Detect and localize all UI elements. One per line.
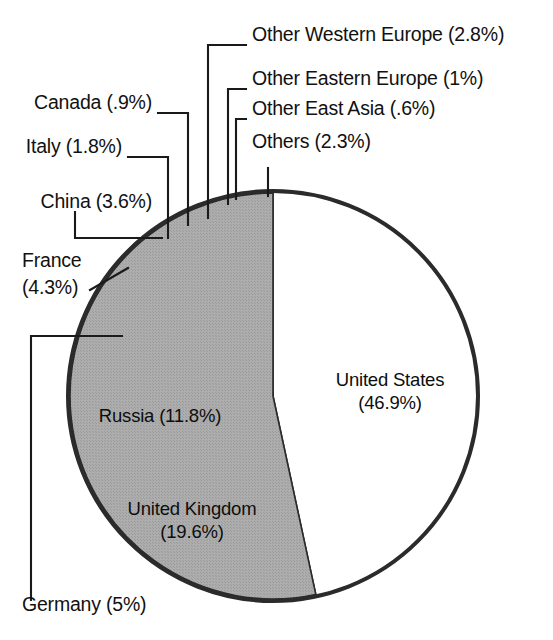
label-united-kingdom-line2: (19.6%) [92,520,292,543]
label-united-states-line1: United States [300,368,480,391]
label-italy: Italy (1.8%) [0,134,122,158]
leader-canada [158,113,188,225]
pie-chart: Other Western Europe (2.8%) Other Easter… [0,0,553,640]
label-other-east-asia: Other East Asia (.6%) [252,96,435,120]
label-other-western-europe: Other Western Europe (2.8%) [252,22,504,46]
label-united-states-line2: (46.9%) [300,391,480,414]
label-united-kingdom-line1: United Kingdom [92,497,292,520]
leader-other-east-asia [236,119,246,199]
label-canada: Canada (.9%) [0,90,152,114]
label-other-eastern-europe: Other Eastern Europe (1%) [252,66,483,90]
label-france-line1: France [22,248,82,272]
label-france-line2: (4.3%) [22,275,78,299]
label-germany: Germany (5%) [22,592,146,616]
label-others: Others (2.3%) [252,129,371,153]
label-russia: Russia (11.8%) [60,404,260,427]
label-china: China (3.6%) [0,189,152,213]
